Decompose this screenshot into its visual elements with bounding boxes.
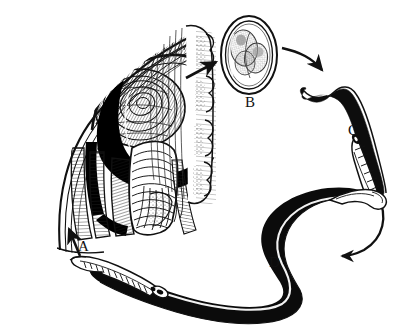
life-cycle-figure: A B C D [0,0,406,336]
life-cycle-illustration [0,0,406,336]
stage-label-d: D [269,255,280,270]
stage-label-a: A [78,239,89,254]
stage-b-egg [221,16,277,94]
stage-label-b: B [245,95,255,110]
stage-label-c: C [348,123,358,138]
